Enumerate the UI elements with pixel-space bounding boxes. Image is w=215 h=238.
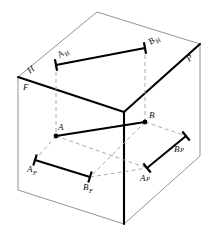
segment-ab-frontal [35, 160, 90, 177]
label-a-frontal-subscript: F [32, 169, 38, 176]
label-p-plane: P [183, 52, 195, 64]
label-a-profile-subscript: P [145, 175, 150, 182]
box-edge-right-bottom-fold [124, 156, 200, 224]
projector-lines [35, 48, 186, 177]
projector-aux-bf-ap [90, 168, 147, 177]
point-b-marker [143, 120, 148, 125]
segment-ab-space [56, 122, 145, 136]
labels-group: H F P A H B H A B A F B F [22, 32, 195, 194]
box-edge-left-bottom [18, 190, 124, 224]
label-a-profile: A [139, 173, 146, 183]
label-f-plane: F [22, 82, 29, 92]
label-a-frontal: A [26, 164, 33, 174]
geometry-canvas: H F P A H B H A B A F B F [0, 0, 215, 238]
label-a-space: A [57, 122, 64, 132]
label-h-plane: H [24, 63, 36, 76]
point-a-marker [54, 134, 59, 139]
box-fold-edges [18, 44, 200, 224]
projector-a-to-af [35, 136, 56, 160]
projector-a-to-ap [56, 136, 147, 168]
label-b-profile-subscript: P [179, 146, 184, 153]
label-b-frontal-subscript: F [88, 187, 94, 194]
projector-b-to-bp [145, 122, 186, 136]
segment-ab-horizontal [56, 48, 145, 65]
fold-edge-hf [18, 77, 124, 112]
descriptive-geometry-figure: H F P A H B H A B A F B F [0, 0, 215, 238]
label-b-space: B [149, 110, 155, 120]
line-segments [35, 48, 186, 177]
box-outline [18, 12, 200, 224]
